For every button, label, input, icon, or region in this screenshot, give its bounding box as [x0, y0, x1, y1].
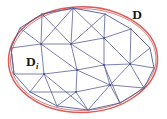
mesh-vertex	[103, 37, 105, 39]
mesh-vertex	[75, 91, 77, 93]
domain-label-D: D	[132, 7, 142, 22]
mesh-vertex	[103, 64, 105, 66]
domain-triangulation-figure: D D i	[0, 0, 167, 119]
mesh-vertex	[43, 73, 45, 75]
mesh-vertex	[76, 69, 78, 71]
mesh-vertex	[70, 43, 72, 45]
mesh-vertex	[109, 84, 111, 86]
subdomain-label-D: D	[26, 54, 36, 69]
mesh-vertex	[40, 43, 42, 45]
mesh-vertex	[129, 63, 131, 65]
figure-container: D D i	[0, 0, 167, 119]
